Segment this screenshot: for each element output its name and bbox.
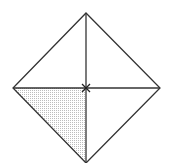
diamond-diagram (0, 0, 169, 163)
